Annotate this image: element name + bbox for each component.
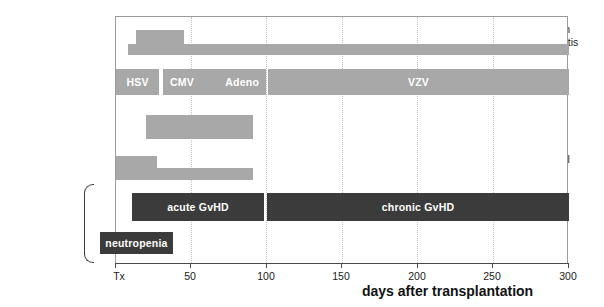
bar-label-chronic-gvhd: chronic GvHD — [267, 193, 569, 221]
x-axis-title: days after transplantation — [362, 283, 533, 299]
bar-bacterial-tail — [116, 168, 253, 180]
x-tick-300 — [568, 263, 569, 268]
bar-acute-gvhd: acute GvHD — [132, 193, 264, 221]
x-tick-label-200: 200 — [408, 270, 426, 282]
bar-label-neutropenia: neutropenia — [100, 232, 173, 254]
bar-chronic-gvhd: chronic GvHD — [267, 193, 569, 221]
x-tick-0 — [115, 263, 116, 268]
x-tick-50 — [190, 263, 191, 268]
bar-label-hsv: HSV — [116, 69, 159, 95]
x-tick-150 — [341, 263, 342, 268]
bar-viral-vzv: VZV — [268, 69, 569, 95]
bar-label-acute-gvhd: acute GvHD — [132, 193, 264, 221]
timeline-chart: radiation pneumonitis viral fungal bacte… — [0, 0, 604, 307]
bar-neutropenia: neutropenia — [100, 232, 173, 254]
bar-radiation-pneumonitis-tail — [128, 44, 569, 55]
x-tick-200 — [417, 263, 418, 268]
x-tick-label-300: 300 — [559, 270, 577, 282]
x-tick-label-tx: Tx — [113, 270, 125, 282]
x-tick-100 — [266, 263, 267, 268]
x-tick-label-150: 150 — [332, 270, 350, 282]
x-tick-label-250: 250 — [483, 270, 501, 282]
bar-label-vzv: VZV — [268, 69, 569, 95]
bar-fungal — [146, 115, 253, 139]
bar-viral-cmv-adeno: CMV Adeno — [163, 69, 266, 95]
x-tick-250 — [492, 263, 493, 268]
bar-label-adeno: Adeno — [163, 69, 266, 95]
plot-area: HSV CMV Adeno VZV acute GvHD chronic GvH… — [115, 16, 568, 263]
risk-factor-bracket — [84, 184, 94, 263]
bar-bacterial-peak — [116, 156, 157, 168]
bar-viral-hsv: HSV — [116, 69, 159, 95]
x-tick-label-50: 50 — [184, 270, 196, 282]
bar-radiation-pneumonitis-peak — [136, 30, 184, 44]
x-tick-label-100: 100 — [257, 270, 275, 282]
bar-label-cmv: CMV — [163, 69, 266, 95]
